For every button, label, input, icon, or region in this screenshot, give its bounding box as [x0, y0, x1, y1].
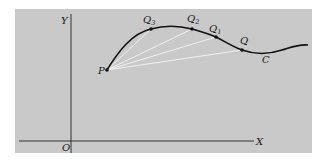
origin-label: O: [62, 142, 70, 153]
point-q2-subscript: 2: [194, 18, 199, 26]
x-axis-label: X: [255, 136, 264, 147]
point-q1-subscript: 1: [217, 28, 221, 36]
point-q: [240, 48, 244, 52]
secant-lines-diagram: Y X O C P Q3 Q2 Q1 Q: [0, 0, 330, 164]
point-q1-letter: Q: [209, 23, 217, 34]
curve-label: C: [262, 54, 270, 65]
point-q3-subscript: 3: [151, 19, 155, 27]
point-q2: [190, 27, 194, 31]
point-q3-letter: Q: [143, 14, 151, 25]
point-q3: [149, 27, 153, 31]
point-q-label: Q: [240, 35, 248, 46]
diagram-panel: [15, 9, 312, 153]
point-p-label: P: [97, 65, 105, 76]
point-p: [105, 68, 109, 72]
point-q2-letter: Q: [187, 13, 195, 24]
